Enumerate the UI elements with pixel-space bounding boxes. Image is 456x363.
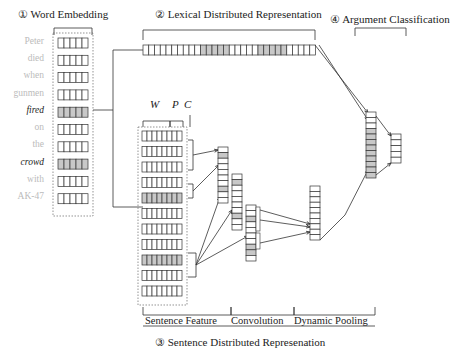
- word-vector-1: [58, 55, 88, 65]
- lexical-representation-title: ② Lexical Distributed Representation: [155, 8, 322, 21]
- sentence-feature-row-6: [142, 224, 182, 234]
- sentence-feature-row-5: [142, 209, 182, 219]
- section-convolution: Convolution: [231, 315, 284, 326]
- sentence-feature-row-3: [142, 178, 182, 188]
- concat-feature-vector: [366, 112, 376, 178]
- feature-label-w: W: [150, 98, 159, 110]
- word-6: the: [0, 139, 44, 149]
- feature-label-c: C: [184, 98, 191, 110]
- word-vector-9: [58, 194, 88, 204]
- argument-classification-title: ④ Argument Classification: [330, 13, 450, 26]
- convolution-column-1: [218, 147, 228, 203]
- word-embedding-title: ① Word Embedding: [18, 8, 108, 21]
- convolution-column-3: [246, 205, 256, 261]
- section-dynamic-pooling: Dynamic Pooling: [294, 315, 368, 326]
- sentence-feature-row-7: [142, 240, 182, 250]
- word-vector-4: [58, 107, 88, 117]
- sentence-representation-title: ③ Sentence Distributed Represenation: [155, 336, 325, 349]
- word-0: Peter: [0, 36, 44, 46]
- lexical-vector: [143, 45, 316, 55]
- word-1: died: [0, 53, 44, 63]
- word-3: gunmen: [0, 88, 44, 98]
- sentence-feature-row-2: [142, 162, 182, 172]
- sentence-feature-row-8: [142, 255, 182, 265]
- word-vector-6: [58, 142, 88, 152]
- word-vector-0: [58, 38, 88, 48]
- diagram-canvas: [0, 0, 456, 363]
- feature-label-p: P: [172, 98, 179, 110]
- sentence-feature-row-0: [142, 131, 182, 141]
- word-vector-3: [58, 90, 88, 100]
- convolution-column-2: [232, 174, 242, 230]
- pooling-vector: [310, 186, 320, 240]
- word-9: AK-47: [0, 191, 44, 201]
- word-vector-5: [58, 125, 88, 135]
- output-vector: [391, 134, 401, 163]
- word-vector-7: [58, 159, 88, 169]
- section-sentence-feature: Sentence Feature: [145, 315, 217, 326]
- word-2: when: [0, 70, 44, 80]
- word-8: with: [0, 174, 44, 184]
- sentence-feature-row-9: [142, 271, 182, 281]
- word-5: on: [0, 122, 44, 132]
- word-4: fired: [0, 105, 44, 115]
- word-7: crowd: [0, 157, 44, 167]
- sentence-feature-row-1: [142, 147, 182, 157]
- sentence-feature-row-4: [142, 193, 182, 203]
- sentence-feature-row-10: [142, 286, 182, 296]
- word-vector-2: [58, 73, 88, 83]
- word-vector-8: [58, 176, 88, 186]
